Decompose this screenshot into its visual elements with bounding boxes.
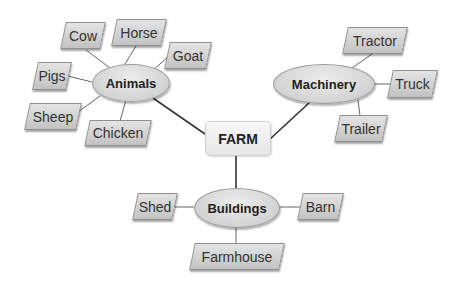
mind-map-canvas: FARM Animals Machinery Buildings Cow Hor… [0, 0, 459, 288]
hub-node-animals[interactable]: Animals [92, 64, 170, 102]
leaf-node-cow[interactable]: Cow [63, 22, 103, 49]
leaf-node-pigs[interactable]: Pigs [35, 62, 69, 90]
leaf-node-sheep[interactable]: Sheep [27, 103, 79, 130]
leaf-node-label: Tractor [353, 33, 397, 49]
hub-node-label: Animals [106, 76, 157, 91]
connector-animals-chicken [120, 100, 126, 121]
leaf-node-tractor[interactable]: Tractor [345, 27, 405, 54]
root-node-farm[interactable]: FARM [205, 121, 271, 156]
connector-farm-animals [150, 96, 205, 134]
hub-node-label: Machinery [292, 77, 356, 92]
leaf-node-label: Trailer [341, 121, 380, 137]
connector-machinery-trailer [358, 100, 360, 116]
leaf-node-label: Chicken [93, 125, 144, 141]
connector-farm-machinery [269, 102, 310, 140]
connector-animals-horse [125, 46, 136, 64]
leaf-node-goat[interactable]: Goat [167, 42, 209, 69]
hub-node-buildings[interactable]: Buildings [194, 188, 280, 228]
leaf-node-label: Truck [395, 76, 429, 92]
leaf-node-label: Horse [120, 25, 157, 41]
leaf-node-chicken[interactable]: Chicken [87, 120, 149, 146]
leaf-node-label: Farmhouse [202, 249, 273, 265]
connector-animals-pigs [68, 76, 92, 82]
leaf-node-barn[interactable]: Barn [300, 193, 341, 220]
hub-node-label: Buildings [207, 201, 266, 216]
leaf-node-truck[interactable]: Truck [390, 70, 435, 98]
leaf-node-label: Goat [173, 48, 203, 64]
leaf-node-label: Barn [306, 199, 336, 215]
root-node-label: FARM [218, 131, 258, 147]
hub-node-machinery[interactable]: Machinery [273, 64, 375, 104]
leaf-node-label: Cow [69, 28, 97, 44]
leaf-node-label: Sheep [33, 109, 73, 125]
leaf-node-label: Shed [139, 199, 172, 215]
leaf-node-trailer[interactable]: Trailer [337, 115, 385, 142]
connector-animals-cow [86, 50, 110, 68]
leaf-node-horse[interactable]: Horse [114, 19, 164, 46]
connector-machinery-tractor [352, 54, 372, 68]
leaf-node-label: Pigs [38, 68, 65, 84]
leaf-node-shed[interactable]: Shed [135, 193, 175, 220]
leaf-node-farmhouse[interactable]: Farmhouse [192, 243, 282, 270]
